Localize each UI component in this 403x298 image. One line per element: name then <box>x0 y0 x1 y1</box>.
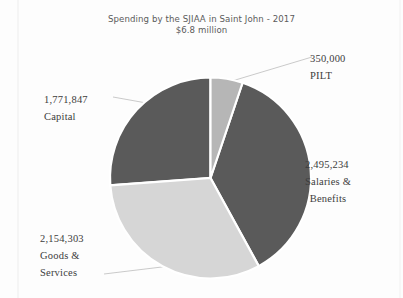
slice-label-salaries-value: 2,495,234 <box>305 156 357 173</box>
slice-label-capital-value: 1,771,847 <box>44 91 90 108</box>
leader-line-pilt <box>232 57 312 81</box>
slice-label-goods-services: 2,154,303 Goods & Services <box>40 230 84 281</box>
pie-slice-capital[interactable] <box>110 78 210 186</box>
slice-label-pilt: 350,000 PILT <box>310 50 350 84</box>
slice-label-goods-name-line1: Goods & <box>40 247 84 264</box>
slice-label-capital: 1,771,847 Capital <box>44 91 90 125</box>
slice-label-goods-value: 2,154,303 <box>40 230 84 247</box>
slice-label-salaries-name-line1: Salaries & <box>305 173 357 190</box>
slice-label-capital-name: Capital <box>44 108 90 125</box>
slice-label-salaries-benefits: 2,495,234 Salaries & Benefits <box>305 156 357 207</box>
pie-chart-figure: Spending by the SJIAA in Saint John - 20… <box>0 0 403 298</box>
leader-line-goods <box>104 266 170 274</box>
slice-label-goods-name-line2: Services <box>40 264 84 281</box>
pie-slices-group <box>110 78 311 279</box>
slice-label-pilt-value: 350,000 <box>310 50 350 67</box>
slice-label-pilt-name: PILT <box>310 67 350 84</box>
slice-label-salaries-name-line2: Benefits <box>305 190 357 207</box>
